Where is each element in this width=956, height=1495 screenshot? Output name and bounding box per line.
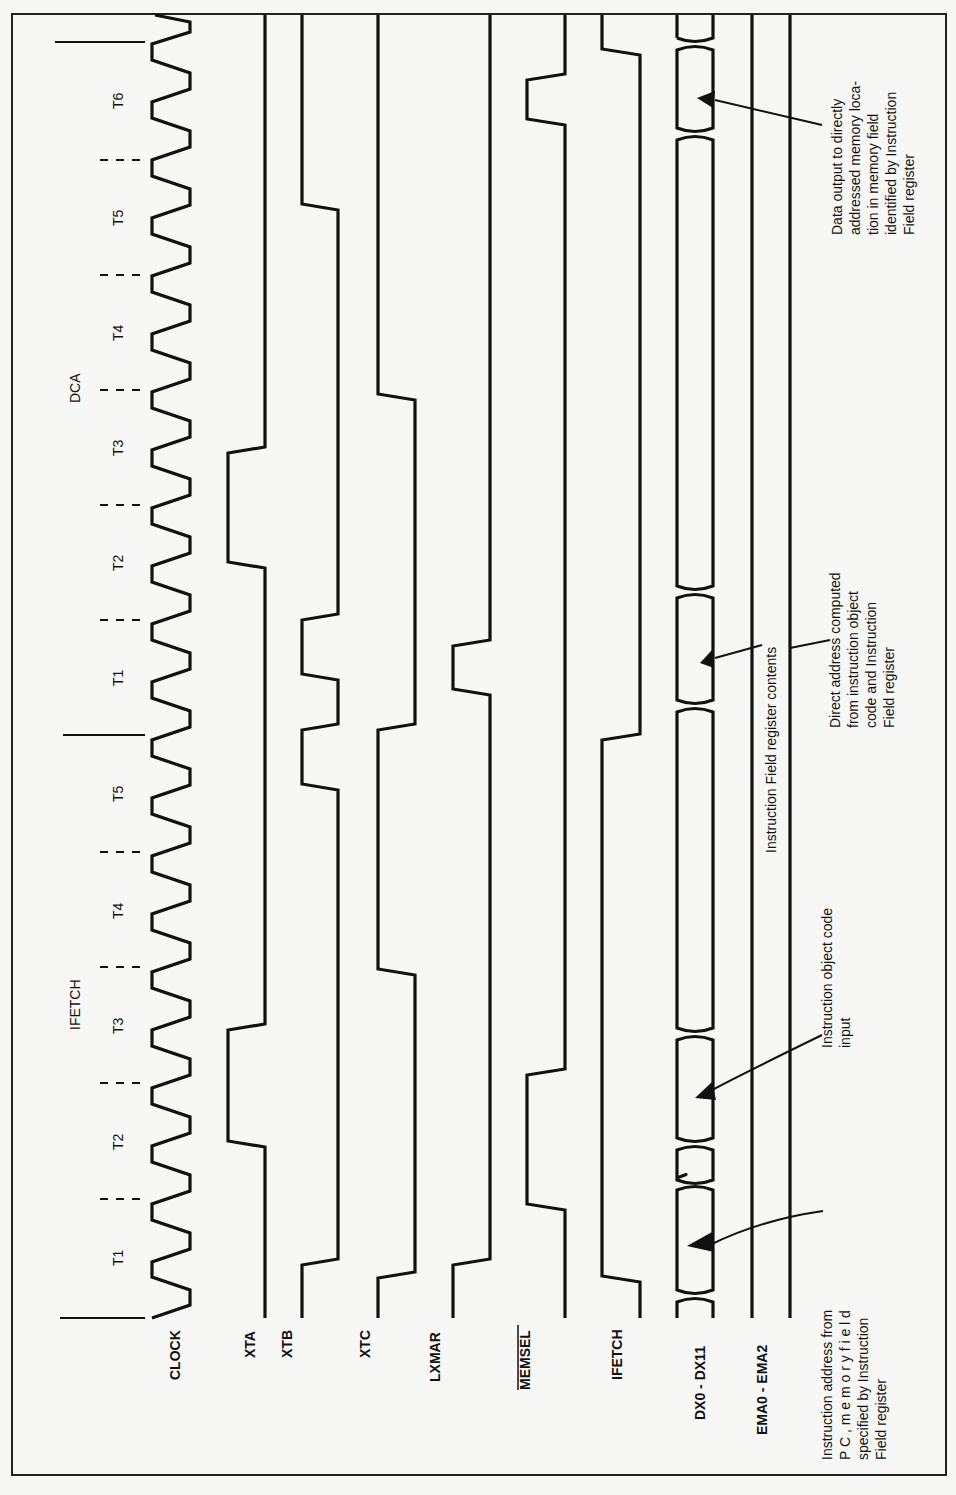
arrow-instruction-address (710, 1211, 823, 1245)
svg-text:tion in memory field: tion in memory field (865, 114, 881, 235)
t-state-labels: T1 T2 T3 T4 T5 T1 T2 T3 T4 T5 T6 (110, 92, 126, 1266)
t-label: T1 (110, 1249, 126, 1266)
annotation-object-code: Instruction object code input (819, 908, 853, 1048)
arrow-direct-address (790, 640, 830, 648)
t-label: T5 (110, 785, 126, 802)
t-label: T3 (110, 1017, 126, 1034)
svg-text:identified by Instruction: identified by Instruction (883, 92, 899, 235)
xtb-waveform (302, 15, 338, 1318)
svg-text:from instruction object: from instruction object (845, 591, 861, 728)
signal-label-xta: XTA (242, 1331, 258, 1358)
annotation-direct-address: Direct address computed from instruction… (827, 572, 897, 728)
lxmar-waveform (453, 15, 490, 1318)
arrowhead-icon (687, 1232, 714, 1252)
xta-waveform (228, 15, 265, 1318)
annotation-data-output: Data output to directly addressed memory… (829, 81, 917, 235)
phase-boundaries (55, 42, 145, 1318)
memsel-waveform (527, 15, 565, 1318)
signal-label-memsel: MEMSEL (517, 1330, 533, 1390)
svg-text:Data output to directly: Data output to directly (829, 99, 845, 235)
svg-text:Field register: Field register (901, 154, 917, 235)
svg-text:Field register: Field register (881, 647, 897, 728)
t-label: T4 (110, 324, 126, 341)
svg-text:P C , m e m o r y f i e: P C , m e m o r y f i e l d (837, 1310, 853, 1460)
arrow-field-contents (715, 645, 762, 658)
svg-text:addressed memory loca-: addressed memory loca- (847, 81, 863, 235)
t-label: T2 (110, 1133, 126, 1150)
signal-label-ifetch: IFETCH (609, 1329, 625, 1380)
signal-label-ema: EMA0 - EMA2 (754, 1345, 770, 1435)
svg-text:input: input (837, 1018, 853, 1048)
clock-waveform (152, 15, 190, 1318)
phase-labels: IFETCH DCA (67, 373, 83, 1030)
signal-label-lxmar: LXMAR (427, 1332, 443, 1382)
arrow-data-output (715, 100, 822, 125)
timing-diagram: IFETCH DCA T1 T2 T3 T4 T5 T1 T2 T3 T4 T5… (0, 0, 956, 1495)
signal-label-clock: CLOCK (167, 1330, 183, 1380)
phase-label-ifetch: IFETCH (67, 979, 83, 1030)
signal-label-xtb: XTB (279, 1330, 295, 1358)
svg-text:Direct address computed: Direct address computed (827, 572, 843, 728)
arrowhead-icon (697, 91, 715, 108)
signal-label-xtc: XTC (357, 1330, 373, 1358)
t-label: T4 (110, 902, 126, 919)
t-label: T5 (110, 209, 126, 226)
svg-text:Instruction object code: Instruction object code (819, 908, 835, 1048)
svg-text:code and Instruction: code and Instruction (863, 602, 879, 728)
signal-labels: CLOCK XTA XTB XTC LXMAR MEMSEL IFETCH DX… (167, 1325, 770, 1435)
t-label: T1 (110, 669, 126, 686)
phase-label-dca: DCA (67, 373, 83, 403)
dx-bus-waveform (677, 15, 713, 1318)
annotation-arrows (687, 91, 830, 1252)
svg-text:specified by Instruction: specified by Instruction (855, 1318, 871, 1460)
svg-text:Instruction address from: Instruction address from (819, 1310, 835, 1460)
annotation-field-contents: Instruction Field register contents (763, 647, 779, 853)
annotation-instruction-address: Instruction address from P C , m e m o r… (819, 1310, 889, 1460)
svg-text:Field register: Field register (873, 1379, 889, 1460)
svg-text:Instruction Field register con: Instruction Field register contents (763, 647, 779, 853)
t-label: T3 (110, 439, 126, 456)
arrow-object-code (712, 1035, 822, 1090)
arrowhead-icon (700, 650, 714, 668)
t-label: T2 (110, 554, 126, 571)
t-label: T6 (110, 92, 126, 109)
ifetch-waveform (602, 15, 640, 1318)
xtc-waveform (378, 15, 415, 1318)
signal-label-dx: DX0 - DX11 (692, 1346, 708, 1420)
